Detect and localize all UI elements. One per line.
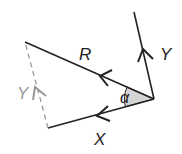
vector-diagram: R Y X Y α <box>0 0 182 154</box>
label-r: R <box>79 45 91 64</box>
vector-y-line <box>134 12 154 99</box>
label-y-dashed: Y <box>17 84 30 103</box>
vector-y-dashed-line <box>25 42 48 128</box>
label-alpha: α <box>120 89 130 106</box>
label-x: X <box>93 130 106 149</box>
label-y: Y <box>160 45 173 64</box>
